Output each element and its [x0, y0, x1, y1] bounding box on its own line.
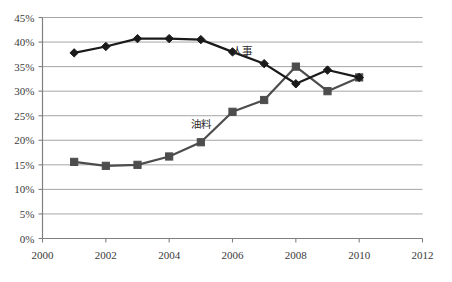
x-axis-tick-label: 2010 — [348, 249, 371, 261]
y-axis-tick-label: 15% — [14, 159, 34, 171]
data-point-marker — [324, 88, 331, 95]
data-point-marker — [229, 108, 236, 115]
y-axis-tick-label: 30% — [14, 85, 34, 97]
y-axis-tick-label: 25% — [14, 110, 34, 122]
y-axis-tick-label: 45% — [14, 12, 34, 24]
data-point-marker — [197, 139, 204, 146]
data-point-marker — [134, 161, 141, 168]
x-axis-tick-label: 2006 — [222, 249, 245, 261]
data-point-marker — [292, 63, 299, 70]
data-point-marker — [102, 162, 109, 169]
series-label-renshi: 人事 — [232, 45, 253, 57]
x-axis-tick-label: 2002 — [95, 249, 117, 261]
data-point-marker — [166, 153, 173, 160]
y-axis-tick-label: 20% — [14, 134, 34, 146]
x-axis-tick-label: 2008 — [285, 249, 308, 261]
x-axis-tick-label: 2012 — [412, 249, 434, 261]
series-label-youliao: 油料 — [191, 118, 212, 130]
y-axis-tick-label: 0% — [20, 233, 35, 245]
data-point-marker — [261, 96, 268, 103]
line-chart: 45%40%35%30%25%20%15%10%5%0% 20002002200… — [0, 0, 452, 282]
chart-container: 45%40%35%30%25%20%15%10%5%0% 20002002200… — [0, 0, 452, 282]
y-axis-tick-label: 5% — [20, 208, 35, 220]
x-axis-tick-label: 2004 — [158, 249, 181, 261]
y-axis-tick-label: 10% — [14, 183, 34, 195]
y-axis-tick-label: 35% — [14, 61, 34, 73]
x-axis-tick-label: 2000 — [32, 249, 55, 261]
data-point-marker — [71, 158, 78, 165]
y-axis-tick-label: 40% — [14, 36, 34, 48]
